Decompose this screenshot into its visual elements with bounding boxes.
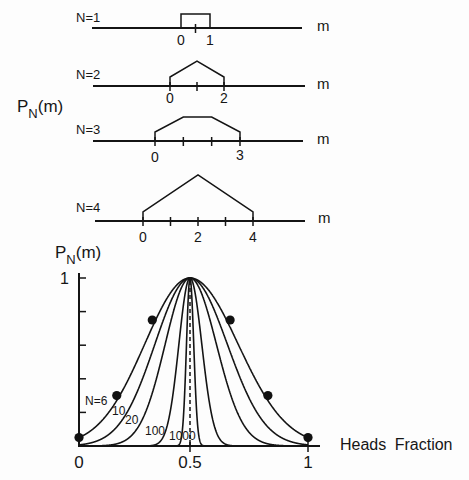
data-point-marker [226, 315, 235, 324]
distribution-n2: N=2 m 0 2 [76, 61, 330, 106]
distribution-outline [155, 117, 240, 141]
m-axis-label: m [318, 209, 331, 226]
tick-label: 2 [194, 229, 202, 245]
curve-label-n20: 20 [125, 413, 139, 427]
m-axis-label: m [317, 17, 330, 34]
data-point-marker [303, 433, 312, 442]
distribution-curves [79, 278, 308, 446]
y-tick-label: 1 [60, 270, 69, 287]
y-label-subscript: N [66, 252, 75, 267]
curve-n20 [79, 278, 308, 446]
figure-canvas: PN(m) N=1 m 0 1 N=2 m 0 2 N=3 [0, 0, 469, 480]
tick-label: 3 [236, 147, 244, 163]
discrete-distributions-panel: PN(m) N=1 m 0 1 N=2 m 0 2 N=3 [17, 10, 331, 245]
tick-label: 0 [177, 32, 185, 48]
curve-label-n1000: 1000 [169, 429, 196, 443]
axis-ticks [79, 278, 308, 452]
tick-label: 1 [206, 32, 214, 48]
tick-label: 2 [220, 90, 228, 106]
m-axis-label: m [317, 75, 330, 92]
data-point-marker [74, 433, 83, 442]
data-point-marker [148, 315, 157, 324]
data-point-marker [112, 391, 121, 400]
tick-label: 0 [139, 229, 147, 245]
curve-n100 [79, 278, 308, 446]
curve-label-n6: N=6 [85, 394, 108, 408]
tick-label: 4 [249, 229, 257, 245]
heads-fraction-panel: PN(m) 1 0 0.5 1 Heads Fraction N=6 10 20… [55, 243, 453, 472]
curve-label-n100: 100 [145, 424, 165, 438]
y-label-argument: (m) [76, 243, 101, 262]
distribution-shape [143, 175, 253, 226]
curve-n1000 [79, 278, 308, 446]
distribution-n1: N=1 m 0 1 [76, 10, 330, 48]
series-label: N=3 [76, 122, 100, 137]
distribution-outline [143, 175, 253, 221]
figure: PN(m) N=1 m 0 1 N=2 m 0 2 N=3 [0, 0, 469, 480]
series-label: N=4 [76, 200, 100, 215]
x-tick-label: 1 [303, 453, 312, 472]
tick-label: 0 [151, 149, 159, 165]
y-label-base: P [17, 97, 28, 116]
x-tick-label: 0 [74, 453, 83, 472]
distribution-shape [181, 14, 210, 33]
data-point-marker [263, 391, 272, 400]
bottom-y-axis-label: PN(m) [55, 243, 101, 267]
top-y-axis-label: PN(m) [17, 97, 63, 121]
m-axis-label: m [317, 130, 330, 147]
tick-label: 0 [166, 90, 174, 106]
distribution-n4: N=4 m 0 2 4 [76, 175, 331, 245]
y-label-base: P [55, 243, 66, 262]
series-label: N=2 [76, 67, 100, 82]
x-tick-label: 0.5 [178, 453, 202, 472]
x-axis-title: Heads Fraction [340, 436, 453, 453]
series-label: N=1 [76, 10, 100, 25]
curve-label-n10: 10 [112, 404, 126, 418]
y-label-argument: (m) [38, 97, 63, 116]
curve-n10 [79, 278, 308, 445]
distribution-n3: N=3 m 0 3 [76, 117, 330, 165]
y-label-subscript: N [28, 106, 37, 121]
